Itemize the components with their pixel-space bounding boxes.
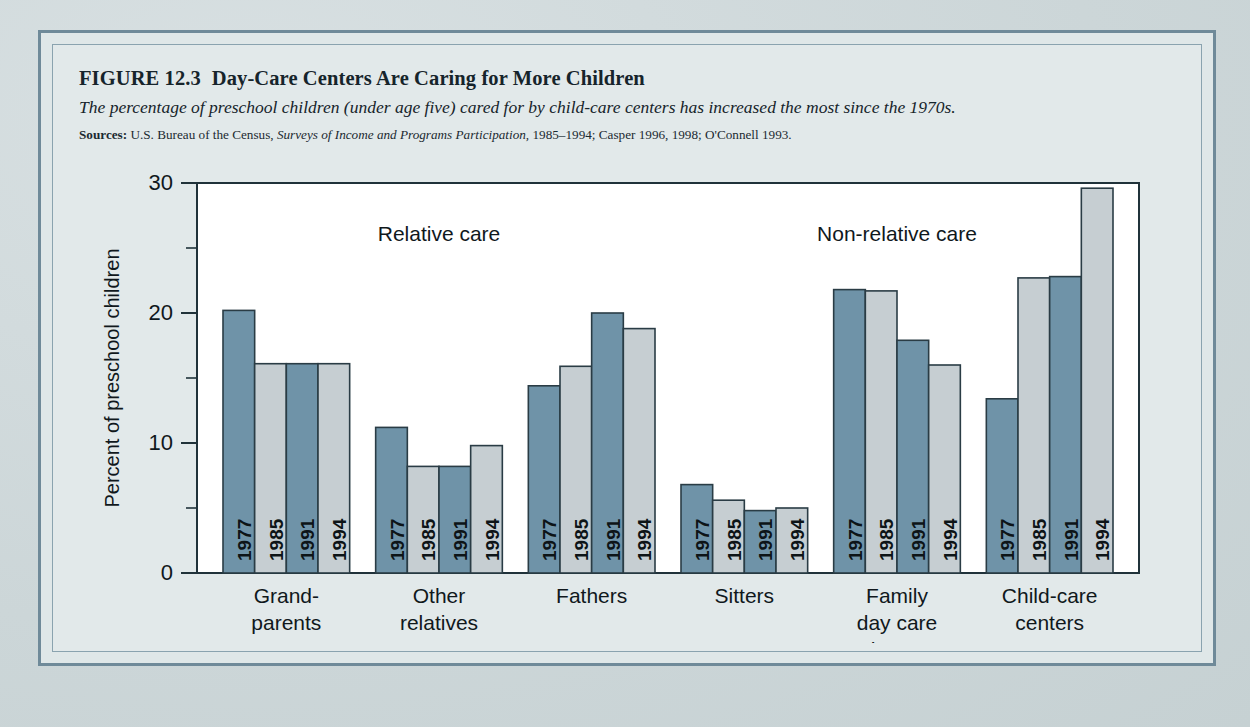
x-axis-group-label-6: centers [1015,611,1084,634]
x-axis-group-label-1: parents [251,611,321,634]
y-axis-tick-label-30: 30 [149,173,173,195]
bar-year-label-1991-group-6: 1991 [1061,518,1082,561]
bar-year-label-1977-group-6: 1977 [997,519,1018,561]
bar-year-label-1985-group-3: 1985 [571,518,592,561]
sources-part-two: 1985–1994; Casper 1996, 1998; O'Connell … [532,127,791,142]
figure-number: FIGURE 12.3 [79,67,201,89]
bar-1994-group-6[interactable] [1081,188,1113,573]
bar-year-label-1994-group-3: 1994 [634,518,655,561]
x-axis-group-label-4: Sitters [715,584,775,607]
figure-inner-border: FIGURE 12.3Day-Care Centers Are Caring f… [52,44,1202,652]
x-axis-group-label-2: relatives [400,611,478,634]
bar-year-label-1985-group-4: 1985 [724,518,745,561]
figure-content: FIGURE 12.3Day-Care Centers Are Caring f… [53,45,1201,651]
bar-year-label-1991-group-1: 1991 [297,518,318,561]
bar-year-label-1977-group-5: 1977 [845,519,866,561]
bar-year-label-1994-group-6: 1994 [1092,518,1113,561]
y-axis-tick-label-20: 20 [149,300,173,325]
bar-year-label-1991-group-3: 1991 [603,518,624,561]
x-axis-group-label-2: Other [413,584,466,607]
sources-italic-title: Surveys of Income and Programs Participa… [277,127,529,142]
y-axis-title: Percent of preschool children [101,248,123,507]
x-axis-group-label-5: Family [866,584,928,607]
figure-frame: FIGURE 12.3Day-Care Centers Are Caring f… [38,30,1216,666]
x-axis-group-label-1: Grand- [254,584,319,607]
bar-year-label-1977-group-4: 1977 [692,519,713,561]
bar-year-label-1977-group-3: 1977 [539,519,560,561]
x-axis-group-label-6: Child-care [1002,584,1098,607]
figure-subtitle: The percentage of preschool children (un… [79,97,1175,118]
bar-year-label-1985-group-2: 1985 [418,518,439,561]
bar-year-label-1994-group-4: 1994 [787,518,808,561]
bar-year-label-1994-group-5: 1994 [940,518,961,561]
x-axis-group-label-5: day care [857,611,938,634]
page-background: FIGURE 12.3Day-Care Centers Are Caring f… [0,0,1250,727]
chart-plot-area: 0102030Percent of preschool children1977… [79,173,1175,645]
bar-year-label-1985-group-1: 1985 [266,518,287,561]
region-annotation-1: Relative care [378,222,501,245]
bar-year-label-1991-group-4: 1991 [755,518,776,561]
y-axis-tick-label-10: 10 [149,430,173,455]
region-annotation-2: Non-relative care [817,222,977,245]
sources-label: Sources: [79,127,127,142]
bar-year-label-1994-group-1: 1994 [329,518,350,561]
x-axis-group-label-3: Fathers [556,584,627,607]
figure-sources: Sources: U.S. Bureau of the Census, Surv… [79,127,1175,143]
bar-year-label-1977-group-1: 1977 [234,519,255,561]
sources-part-one: U.S. Bureau of the Census, [130,127,273,142]
bar-year-label-1985-group-6: 1985 [1029,518,1050,561]
figure-caption-title: FIGURE 12.3Day-Care Centers Are Caring f… [79,67,1175,90]
figure-title-text: Day-Care Centers Are Caring for More Chi… [212,67,645,89]
x-axis-group-label-5: home [871,638,924,643]
bar-year-label-1985-group-5: 1985 [876,518,897,561]
bar-year-label-1977-group-2: 1977 [387,519,408,561]
bar-chart-svg: 0102030Percent of preschool children1977… [79,173,1151,643]
y-axis-tick-label-0: 0 [161,560,173,585]
bar-year-label-1991-group-2: 1991 [450,518,471,561]
bar-year-label-1994-group-2: 1994 [482,518,503,561]
bar-year-label-1991-group-5: 1991 [908,518,929,561]
